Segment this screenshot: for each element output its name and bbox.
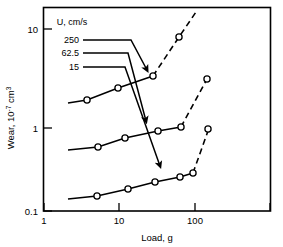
series-250-marker xyxy=(84,97,90,103)
legend-title: U, cm/s xyxy=(57,17,88,27)
series-62-5-marker xyxy=(95,144,101,150)
y-tick-label-10: 10 xyxy=(27,24,38,35)
leader-line-250 xyxy=(83,40,147,70)
svg-text:Wear, 10-7 cm3: Wear, 10-7 cm3 xyxy=(5,86,17,149)
y-axis-title: Wear, 10-7 cm3 xyxy=(5,86,17,149)
legend-item-15: 15 xyxy=(69,62,79,72)
chart-svg: 10 1 0.1 1 10 100 Load, g Wear, 10-7 cm3 xyxy=(0,0,283,247)
y-axis-title-prefix: Wear, 10 xyxy=(5,111,16,149)
y-axis-title-exponent2: 3 xyxy=(5,86,12,90)
series-15-marker xyxy=(94,193,100,199)
series-15-marker xyxy=(205,126,211,132)
series-15-solid-line xyxy=(68,173,193,199)
series-15 xyxy=(68,126,211,199)
x-tick-label-10: 10 xyxy=(114,215,125,226)
series-15-marker xyxy=(177,174,183,180)
series-62-5-marker xyxy=(155,128,161,134)
series-250-dashed-line xyxy=(153,12,196,76)
y-axis-title-mid: cm xyxy=(5,90,16,105)
series-62-5-dashed-line xyxy=(181,79,207,127)
series-250-marker xyxy=(115,85,121,91)
x-axis-title: Load, g xyxy=(141,232,173,243)
series-15-marker xyxy=(190,170,196,176)
legend-item-62-5: 62.5 xyxy=(61,48,79,58)
series-15-marker xyxy=(152,179,158,185)
y-tick-label-1: 1 xyxy=(33,123,38,134)
series-250-marker xyxy=(176,34,182,40)
legend-item-250: 250 xyxy=(64,35,79,45)
y-axis-ticks xyxy=(44,29,53,211)
x-axis-ticks xyxy=(44,203,270,211)
y-tick-label-0-1: 0.1 xyxy=(25,206,38,217)
series-62-5 xyxy=(68,76,210,150)
series-62-5-marker xyxy=(178,124,184,130)
x-tick-label-100: 100 xyxy=(187,215,203,226)
series-250-marker xyxy=(150,73,156,79)
series-15-dashed-line xyxy=(193,131,208,173)
series-15-marker xyxy=(125,186,131,192)
x-tick-label-1: 1 xyxy=(41,215,46,226)
series-62-5-marker xyxy=(204,76,210,82)
wear-vs-load-chart: 10 1 0.1 1 10 100 Load, g Wear, 10-7 cm3 xyxy=(0,0,283,247)
series-62-5-marker xyxy=(122,135,128,141)
leader-line-15 xyxy=(83,67,160,166)
